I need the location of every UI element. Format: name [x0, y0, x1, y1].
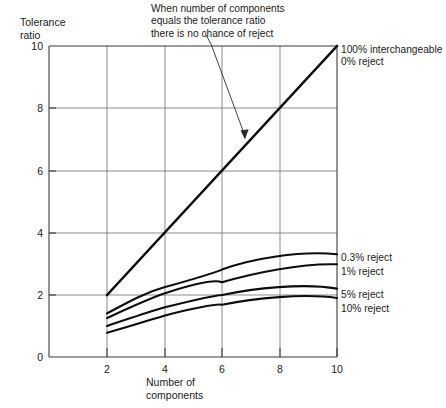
series-label-1-reject: 1% reject [341, 266, 383, 278]
series-label-0p3-reject: 0.3% reject [341, 252, 392, 264]
x-tick-label: 10 [331, 363, 343, 375]
x-tick-label: 2 [104, 363, 110, 375]
y-axis-ticks [49, 108, 56, 295]
y-tick-labels: 0 2 4 6 8 10 [31, 40, 43, 363]
x-axis-title: Number of components [146, 376, 203, 402]
y-tick-label: 2 [37, 289, 43, 301]
series-label-interchangeable: 100% interchangeable 0% reject [341, 44, 442, 69]
series-label-10-reject: 10% reject [341, 303, 389, 315]
y-axis-title: Tolerance ratio [20, 16, 66, 42]
x-axis-ticks [107, 348, 337, 357]
y-tick-label: 4 [37, 227, 43, 239]
tolerance-ratio-chart-figure: 2 4 6 8 10 0 2 4 6 8 10 Tolerance ratio … [0, 0, 446, 408]
x-tick-label: 4 [162, 363, 168, 375]
x-tick-label: 8 [277, 363, 283, 375]
y-tick-label: 6 [37, 165, 43, 177]
callout-annotation-text: When number of components equals the tol… [151, 3, 285, 40]
x-tick-label: 6 [219, 363, 225, 375]
series-label-5-reject: 5% reject [341, 289, 383, 301]
x-tick-labels: 2 4 6 8 10 [104, 363, 343, 375]
y-tick-label: 0 [37, 351, 43, 363]
y-tick-label: 8 [37, 102, 43, 114]
callout-leader-line [205, 33, 249, 140]
